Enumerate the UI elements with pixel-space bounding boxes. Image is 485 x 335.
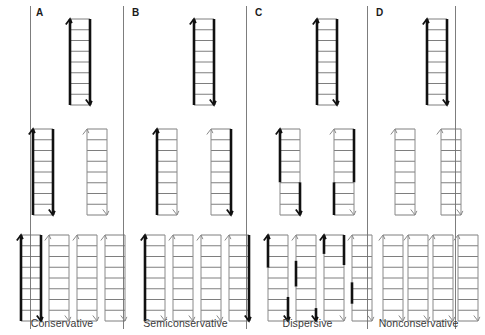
panel-caption-c: Dispersive (247, 317, 368, 329)
dna-ladder (420, 12, 454, 112)
row-generation-2 (247, 228, 368, 328)
row-generation-1 (0, 122, 124, 222)
row-generation-1 (124, 122, 247, 222)
panel-caption-d: Nonconservative (368, 317, 469, 329)
strand-arrow-up (292, 235, 298, 241)
dna-ladder (310, 12, 344, 112)
dna-ladder (327, 122, 361, 222)
strand-arrow-down (457, 210, 463, 216)
strand-arrow-up (454, 235, 460, 241)
strand-arrow-up (330, 129, 336, 135)
panel-d: DNonconservative (368, 0, 469, 335)
strand-arrow-up (169, 235, 175, 241)
panel-caption-b: Semiconservative (124, 317, 247, 329)
dna-ladder (434, 122, 468, 222)
row-parent (124, 12, 247, 112)
dna-ladder (26, 122, 60, 222)
row-generation-2 (368, 228, 469, 328)
strand-arrow-up (391, 129, 397, 135)
row-generation-1 (368, 122, 469, 222)
dna-ladder (80, 122, 114, 222)
strand-arrow-up (379, 235, 385, 241)
strand-arrow-up (225, 235, 231, 241)
strand-arrow-up (101, 235, 107, 241)
strand-arrow-up (429, 235, 435, 241)
panel-c: CDispersive (247, 0, 368, 335)
row-parent (368, 12, 469, 112)
panel-caption-a: Conservative (0, 317, 124, 329)
strand-arrow-up (404, 235, 410, 241)
strand-arrow-down (350, 210, 356, 216)
panel-b: BSemiconservative (124, 0, 247, 335)
row-generation-2 (0, 228, 124, 328)
strand-arrow-down (411, 210, 417, 216)
dna-ladder (204, 122, 238, 222)
strand-arrow-up (197, 235, 203, 241)
dna-ladder (150, 122, 184, 222)
row-generation-1 (247, 122, 368, 222)
dna-ladder (273, 122, 307, 222)
dna-ladder (187, 12, 221, 112)
strand-arrow-up (73, 235, 79, 241)
row-parent (0, 12, 124, 112)
strand-arrow-up (437, 129, 443, 135)
strand-arrow-down (173, 210, 179, 216)
strand-arrow-up (348, 235, 354, 241)
dna-ladder (63, 12, 97, 112)
strand-arrow-up (45, 235, 51, 241)
row-generation-2 (124, 228, 247, 328)
panel-a: AConservative (0, 0, 124, 335)
strand-arrow-down (474, 316, 480, 322)
strand-arrow-up (207, 129, 213, 135)
dna-ladder (451, 228, 485, 328)
strand-arrow-down (103, 210, 109, 216)
row-parent (247, 12, 368, 112)
strand-arrow-up (83, 129, 89, 135)
dna-ladder (388, 122, 422, 222)
